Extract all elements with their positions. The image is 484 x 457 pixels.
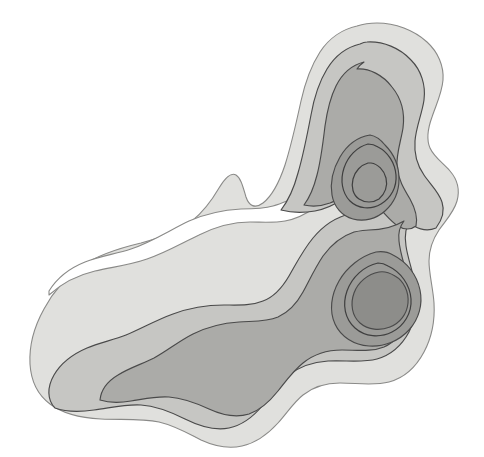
contour-plot-canvas bbox=[0, 0, 484, 457]
contour-plot-figure bbox=[0, 0, 484, 457]
